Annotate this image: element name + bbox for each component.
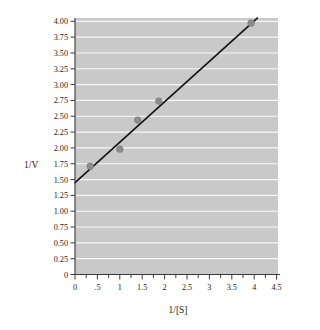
x-tick-label: 2.5 [182,283,192,292]
y-axis-title: 1/V [24,160,38,170]
x-tick-label: 3 [207,283,211,292]
lineweaver-burk-plot-figure: 00.250.500.751.001.251.501.752.002.252.5… [0,0,320,330]
x-tick-label: 4.5 [271,283,281,292]
x-tick-label: 2 [163,283,167,292]
y-tick-label: 3.75 [54,33,68,42]
y-tick-label: 4.00 [54,17,68,26]
x-tick-label: 3.5 [227,283,237,292]
data-point [248,20,255,27]
y-tick-label: 2.25 [54,128,68,137]
y-tick-label: 2.75 [54,96,68,105]
y-tick-label: 2.50 [54,112,68,121]
y-axis-ticks: 00.250.500.751.001.251.501.752.002.252.5… [54,17,75,279]
y-tick-label: 1.25 [54,191,68,200]
y-tick-label: 0 [64,271,68,280]
y-tick-label: 1.50 [54,176,68,185]
data-point [116,146,123,153]
data-point [155,98,162,105]
x-axis-ticks: 0.511.522.533.544.5 [73,275,282,293]
plot-background [75,18,278,274]
y-tick-label: 3.50 [54,49,68,58]
x-tick-label: 1.5 [137,283,147,292]
data-point [87,163,94,170]
chart-canvas: 00.250.500.751.001.251.501.752.002.252.5… [0,0,320,330]
y-tick-label: 0.50 [54,239,68,248]
x-tick-label: 4 [252,283,256,292]
y-tick-label: 0.75 [54,223,68,232]
x-tick-label: 0 [73,283,77,292]
y-tick-label: 2.00 [54,144,68,153]
data-point [134,117,141,124]
y-tick-label: 1.00 [54,207,68,216]
x-tick-label: .5 [94,283,100,292]
y-tick-label: 1.75 [54,160,68,169]
y-tick-label: 3.25 [54,65,68,74]
y-tick-label: 0.25 [54,255,68,264]
x-axis-title: 1/[S] [169,305,188,315]
y-tick-label: 3.00 [54,81,68,90]
x-tick-label: 1 [118,283,122,292]
